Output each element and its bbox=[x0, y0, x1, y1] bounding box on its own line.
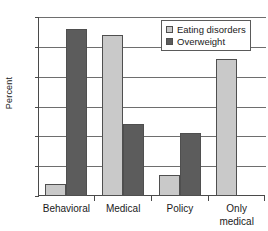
bar-medical-eating-disorders bbox=[102, 35, 123, 196]
x-axis-label-3: Policy bbox=[152, 203, 209, 216]
legend-swatch-icon bbox=[166, 38, 173, 45]
bar-chart: Percent 60 50 40 30 20 10 0 BehavioralMe… bbox=[0, 0, 268, 231]
x-axis-label-line: Behavioral bbox=[38, 203, 95, 216]
legend: Eating disordersOverweight bbox=[161, 20, 251, 51]
bar-behavioral-overweight bbox=[66, 29, 87, 196]
legend-label: Eating disorders bbox=[177, 24, 246, 35]
y-axis-title: Percent bbox=[4, 63, 14, 123]
y-tick-mark-0 bbox=[35, 196, 39, 197]
x-axis-separator bbox=[208, 196, 209, 201]
legend-item-overweight: Overweight bbox=[166, 35, 246, 47]
bar-policy-eating-disorders bbox=[159, 175, 180, 196]
bar-medical-overweight bbox=[123, 124, 144, 196]
legend-label: Overweight bbox=[177, 36, 225, 47]
x-axis-separator bbox=[94, 196, 95, 201]
bar-policy-overweight bbox=[180, 133, 201, 196]
x-axis-label-line: Medical bbox=[95, 203, 152, 216]
legend-item-eating-disorders: Eating disorders bbox=[166, 23, 246, 35]
x-axis-label-line: Policy bbox=[152, 203, 209, 216]
x-axis-label-line: medical bbox=[208, 216, 265, 229]
x-axis-separator bbox=[264, 196, 265, 201]
x-axis-separator bbox=[151, 196, 152, 201]
x-axis-label-line: Only bbox=[208, 203, 265, 216]
legend-swatch-icon bbox=[166, 26, 173, 33]
x-axis-label-1: Behavioral bbox=[38, 203, 95, 216]
x-axis-label-4: Onlymedical bbox=[208, 203, 265, 228]
x-axis-labels: BehavioralMedicalPolicyOnlymedical bbox=[38, 203, 265, 231]
bar-behavioral-eating-disorders bbox=[45, 184, 66, 196]
bar-only-medical-eating-disorders bbox=[216, 59, 237, 196]
x-axis-label-2: Medical bbox=[95, 203, 152, 216]
